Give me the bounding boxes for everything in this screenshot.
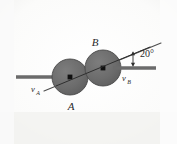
velocity-a-subscript: A: [35, 90, 40, 96]
scan-tint-left: [0, 0, 14, 144]
angle-label: 20°: [140, 48, 154, 59]
scan-tint-bottom: [0, 112, 177, 144]
disk-a-center-dot: [68, 75, 73, 80]
velocity-b-label: v: [122, 73, 126, 83]
scan-tint-right: [160, 0, 177, 144]
velocity-b-subscript: B: [127, 79, 131, 85]
velocity-a-label: v: [31, 84, 35, 94]
disk-a-label: A: [67, 100, 75, 112]
physics-figure: B A v A v B 20°: [0, 0, 177, 144]
diagram-canvas: B A v A v B 20°: [0, 0, 177, 144]
disk-b-label: B: [92, 36, 99, 48]
